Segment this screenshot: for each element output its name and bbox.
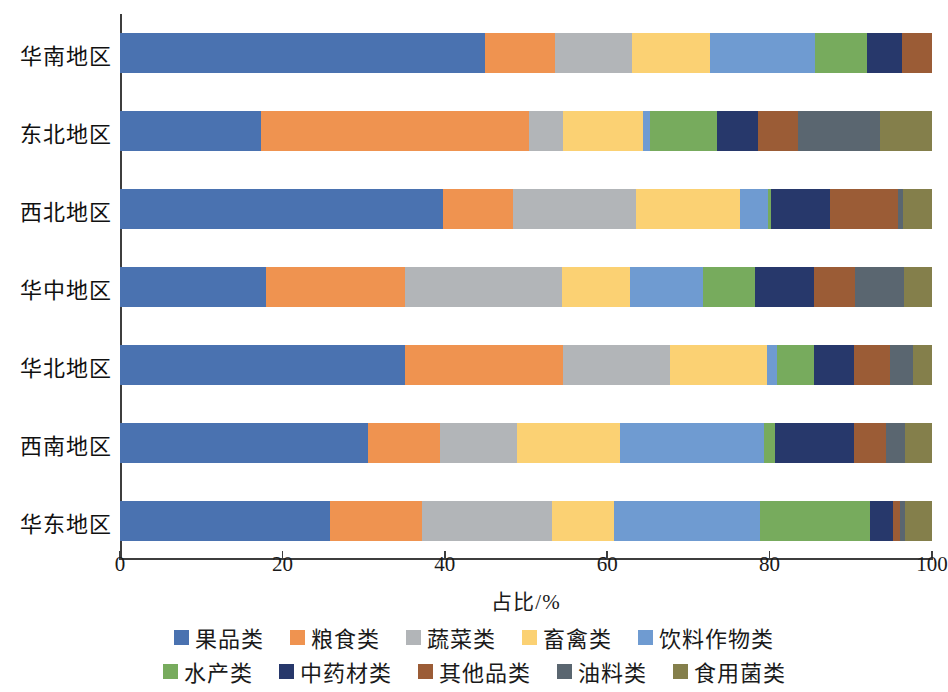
y-axis-category-label: 西南地区 [0, 428, 112, 460]
bar-segment [422, 501, 552, 541]
bar-segment [758, 111, 798, 151]
bar-segment [777, 345, 814, 385]
x-tick-label: 60 [597, 552, 618, 577]
legend-label: 中药材类 [300, 655, 392, 687]
stacked-bar [120, 501, 932, 541]
x-axis-title: 占比/% [120, 585, 932, 615]
bar-segment [120, 345, 405, 385]
legend-swatch-icon [418, 664, 433, 679]
x-tick-label: 80 [759, 552, 780, 577]
x-tick-label: 0 [115, 552, 126, 577]
bar-segment [740, 189, 768, 229]
bar-segment [120, 423, 368, 463]
legend-item[interactable]: 中药材类 [279, 655, 392, 687]
bar-segment [717, 111, 758, 151]
bar-segment [563, 345, 669, 385]
legend-item[interactable]: 果品类 [174, 621, 264, 653]
legend-label: 饮料作物类 [659, 621, 774, 653]
bar-segment [913, 345, 932, 385]
bar-segment [266, 267, 405, 307]
bar-segment [870, 501, 893, 541]
bar-segment [814, 267, 855, 307]
legend: 果品类粮食类蔬菜类畜禽类饮料作物类 水产类中药材类其他品类油料类食用菌类 [0, 620, 948, 688]
y-axis-category-label: 华东地区 [0, 506, 112, 538]
bar-segment [855, 267, 905, 307]
bar-segment [854, 345, 890, 385]
bar-segment [485, 33, 555, 73]
plot-area [120, 14, 932, 560]
bar-segment [854, 423, 886, 463]
bar-segment [405, 267, 562, 307]
stacked-bar [120, 267, 932, 307]
bar-segment [903, 189, 932, 229]
bar-segment [767, 345, 777, 385]
legend-item[interactable]: 粮食类 [290, 621, 380, 653]
bar-segment [620, 423, 764, 463]
legend-row-top: 果品类粮食类蔬菜类畜禽类饮料作物类 [0, 620, 948, 654]
legend-item[interactable]: 饮料作物类 [638, 621, 774, 653]
bar-segment [893, 501, 900, 541]
bar-segment [614, 501, 760, 541]
y-axis-category-label: 华南地区 [0, 38, 112, 70]
stacked-bar [120, 111, 932, 151]
legend-swatch-icon [279, 664, 294, 679]
legend-label: 水产类 [184, 655, 253, 687]
bar-segment [775, 423, 854, 463]
legend-swatch-icon [163, 664, 178, 679]
bar-segment [905, 423, 932, 463]
legend-swatch-icon [406, 630, 421, 645]
x-tick-label: 100 [916, 552, 948, 577]
bar-segment [529, 111, 563, 151]
bar-segment [120, 33, 485, 73]
bar-segment [815, 33, 867, 73]
legend-swatch-icon [522, 630, 537, 645]
legend-item[interactable]: 畜禽类 [522, 621, 612, 653]
bar-segment [814, 345, 854, 385]
y-axis-category-label: 华北地区 [0, 350, 112, 382]
legend-label: 果品类 [195, 621, 264, 653]
bar-segment [760, 501, 870, 541]
bar-segment [798, 111, 880, 151]
bar-segment [830, 189, 898, 229]
legend-swatch-icon [673, 664, 688, 679]
legend-item[interactable]: 水产类 [163, 655, 253, 687]
stacked-bar [120, 423, 932, 463]
bar-segment [643, 111, 650, 151]
bar-segment [650, 111, 717, 151]
x-tick-label: 20 [272, 552, 293, 577]
bar-segment [368, 423, 440, 463]
bar-segment [771, 189, 829, 229]
bar-segment [120, 267, 266, 307]
bar-segment [632, 33, 711, 73]
bar-segment [867, 33, 902, 73]
bar-segment [120, 501, 330, 541]
legend-label: 蔬菜类 [427, 621, 496, 653]
bar-segment [904, 267, 932, 307]
bar-segment [555, 33, 631, 73]
y-axis-category-label: 华中地区 [0, 272, 112, 304]
x-tick-label: 40 [434, 552, 455, 577]
bar-segment [636, 189, 741, 229]
stacked-bar [120, 33, 932, 73]
x-axis-line [120, 558, 932, 560]
bar-segment [764, 423, 775, 463]
legend-item[interactable]: 其他品类 [418, 655, 531, 687]
legend-label: 畜禽类 [543, 621, 612, 653]
legend-label: 粮食类 [311, 621, 380, 653]
bar-segment [710, 33, 815, 73]
legend-swatch-icon [290, 630, 305, 645]
bar-segment [670, 345, 767, 385]
y-axis-category-label: 西北地区 [0, 194, 112, 226]
bar-segment [443, 189, 513, 229]
bar-segment [330, 501, 422, 541]
legend-item[interactable]: 食用菌类 [673, 655, 786, 687]
bar-segment [513, 189, 636, 229]
bar-segment [562, 267, 630, 307]
bar-segment [890, 345, 914, 385]
stacked-bar [120, 345, 932, 385]
legend-item[interactable]: 油料类 [557, 655, 647, 687]
legend-item[interactable]: 蔬菜类 [406, 621, 496, 653]
bar-segment [261, 111, 529, 151]
legend-label: 油料类 [578, 655, 647, 687]
bar-segment [120, 111, 261, 151]
